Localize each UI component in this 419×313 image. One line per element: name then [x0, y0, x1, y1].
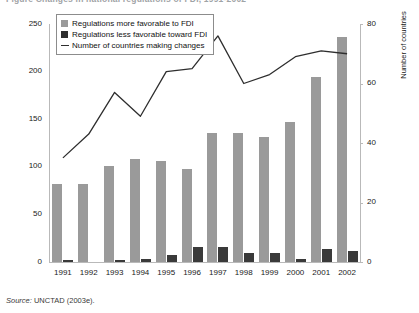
figure-title-text: Figure Changes in national regulations o…: [6, 0, 246, 4]
y-axis-left-tick-label: 0: [18, 257, 42, 266]
figure-title-clipped: Figure Changes in national regulations o…: [6, 0, 411, 7]
y-axis-right-title: Number of countries: [399, 0, 408, 105]
source-note: Source: UNCTAD (2003e).: [6, 296, 95, 305]
plot-area: [49, 24, 361, 263]
legend-item-more-favorable: Regulations more favorable to FDI: [61, 18, 207, 29]
legend-label-countries: Number of countries making changes: [72, 40, 205, 51]
legend-item-less-favorable: Regulations less favorable toward FDI: [61, 29, 207, 40]
legend-swatch-light-square-icon: [61, 20, 68, 27]
y-axis-right-tick-label: 40: [367, 138, 391, 147]
y-axis-left-tick-label: 250: [18, 19, 42, 28]
legend-swatch-dark-square-icon: [61, 31, 68, 38]
y-axis-left-tick-label: 200: [18, 66, 42, 75]
y-axis-right-tick-mark: [360, 24, 363, 25]
y-axis-right-tick-mark: [360, 143, 363, 144]
source-value: UNCTAD (2003e).: [34, 296, 95, 305]
y-axis-right-tick-label: 0: [367, 257, 391, 266]
x-axis-tick-label: 2002: [327, 268, 367, 277]
countries-line-series: [50, 24, 360, 262]
y-axis-left-tick-label: 50: [18, 209, 42, 218]
source-prefix: Source:: [6, 296, 32, 305]
legend-label-less-favorable: Regulations less favorable toward FDI: [72, 29, 207, 40]
y-axis-left-tick-label: 100: [18, 161, 42, 170]
y-axis-left-tick-label: 150: [18, 114, 42, 123]
y-axis-right-tick-mark: [360, 84, 363, 85]
y-axis-right-tick-label: 20: [367, 197, 391, 206]
y-axis-right-tick-mark: [360, 203, 363, 204]
y-axis-right-tick-label: 60: [367, 78, 391, 87]
legend-swatch-line-icon: [61, 45, 69, 46]
plot-inner: [50, 24, 360, 262]
legend-label-more-favorable: Regulations more favorable to FDI: [72, 18, 194, 29]
chart-legend: Regulations more favorable to FDI Regula…: [56, 14, 214, 55]
figure-container: Figure Changes in national regulations o…: [0, 0, 419, 313]
y-axis-right-tick-label: 80: [367, 19, 391, 28]
y-axis-right-tick-mark: [360, 262, 363, 263]
legend-item-countries-line: Number of countries making changes: [61, 40, 207, 51]
